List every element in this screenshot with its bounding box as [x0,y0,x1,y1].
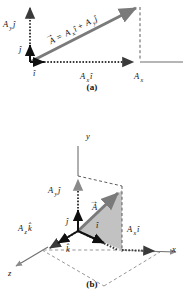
svg-text:y: y [9,25,13,31]
label-unit-j: ĵ [65,216,69,226]
label-ay-jhat: A y ĵ [47,185,61,197]
label-ax-tip: A x [133,71,144,83]
svg-text:=: = [55,31,64,42]
label-ay-jhat: A y ĵ [2,19,16,31]
svg-text:x: x [133,230,137,236]
svg-text:A: A [126,224,133,234]
svg-text:z: z [24,229,28,235]
label-vector-a: A → [90,196,99,212]
svg-text:A: A [47,185,54,195]
label-unit-i: î [33,68,36,78]
z-axis-line [16,247,48,266]
caption-panel-a: (a) [0,82,184,92]
svg-text:A: A [79,71,86,81]
svg-text:î: î [90,71,93,81]
label-az-khat: A z k̂ [17,222,32,234]
label-unit-j: ĵ [18,44,22,54]
label-unit-k: k̂ [66,243,70,254]
svg-text:ĵ: ĵ [12,19,16,29]
label-ax-ihat: A x î [126,224,140,236]
svg-text:ĵ: ĵ [57,185,61,195]
svg-text:î: î [137,224,140,234]
svg-text:k̂: k̂ [28,222,32,233]
caption-panel-b: (b) [0,279,184,289]
unit-vector-k-arrow [58,231,78,243]
svg-text:A: A [133,71,140,81]
top-dashed-edge [78,176,122,186]
label-ax-ihat: A x î [79,71,93,83]
svg-text:y: y [54,191,58,197]
vector-overbar-a: → [90,196,99,206]
panel-b-svg: y x z A y ĵ A x î A z k̂ [0,100,184,302]
label-axis-x: x [171,244,176,254]
vector-components-figure: A y ĵ ĵ î A x î A x A → = [0,0,184,302]
svg-text:A: A [17,223,24,233]
svg-text:A: A [2,19,9,29]
panel-b-3d-diagram: y x z A y ĵ A x î A z k̂ [0,100,184,302]
label-axis-y: y [85,131,90,141]
label-axis-z: z [7,268,12,278]
